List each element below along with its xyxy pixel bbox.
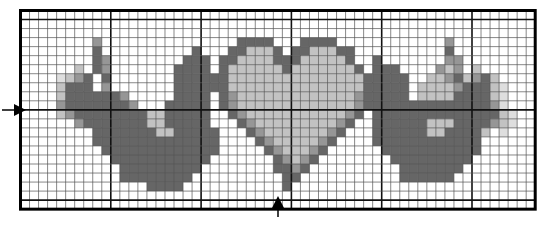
- stitch-cell: [120, 155, 129, 164]
- stitch-cell: [201, 146, 210, 155]
- stitch-cell: [400, 83, 409, 92]
- stitch-cell: [291, 137, 300, 146]
- stitch-cell: [183, 56, 192, 65]
- stitch-cell: [147, 110, 156, 119]
- stitch-cell: [291, 128, 300, 137]
- stitch-cell: [409, 128, 418, 137]
- stitch-cell: [102, 92, 111, 101]
- stitch-cell: [93, 101, 102, 110]
- stitch-cell: [337, 101, 346, 110]
- stitch-cell: [364, 83, 373, 92]
- stitch-cell: [291, 65, 300, 74]
- stitch-cell: [499, 83, 508, 92]
- stitch-cell: [309, 74, 318, 83]
- stitch-cell: [508, 119, 517, 128]
- stitch-cell: [273, 164, 282, 173]
- stitch-cell: [219, 65, 228, 74]
- stitch-cell: [445, 83, 454, 92]
- stitch-cell: [328, 110, 337, 119]
- stitch-cell: [346, 74, 355, 83]
- stitch-cell: [445, 65, 454, 74]
- stitch-cell: [147, 119, 156, 128]
- stitch-cell: [309, 92, 318, 101]
- stitch-cell: [111, 119, 120, 128]
- stitch-cell: [165, 173, 174, 182]
- stitch-cell: [273, 128, 282, 137]
- stitch-cell: [192, 110, 201, 119]
- stitch-cell: [418, 146, 427, 155]
- stitch-cell: [120, 119, 129, 128]
- stitch-cell: [382, 74, 391, 83]
- stitch-cell: [328, 83, 337, 92]
- stitch-cell: [346, 119, 355, 128]
- stitch-cell: [418, 101, 427, 110]
- stitch-cell: [66, 101, 75, 110]
- stitch-cell: [291, 119, 300, 128]
- stitch-cell: [346, 101, 355, 110]
- stitch-cell: [273, 119, 282, 128]
- stitch-cell: [454, 110, 463, 119]
- stitch-cell: [192, 101, 201, 110]
- stitch-cell: [120, 146, 129, 155]
- stitch-cell: [183, 155, 192, 164]
- stitch-cell: [382, 119, 391, 128]
- stitch-cell: [246, 74, 255, 83]
- stitch-cell: [300, 38, 309, 47]
- stitch-cell: [75, 101, 84, 110]
- stitch-cell: [318, 83, 327, 92]
- stitch-cell: [427, 119, 436, 128]
- stitch-cell: [246, 38, 255, 47]
- stitch-cell: [282, 155, 291, 164]
- stitch-cell: [481, 128, 490, 137]
- stitch-cell: [418, 92, 427, 101]
- stitch-cell: [355, 101, 364, 110]
- stitch-cell: [454, 65, 463, 74]
- stitch-cell: [93, 56, 102, 65]
- stitch-cell: [264, 128, 273, 137]
- stitch-cell: [246, 65, 255, 74]
- stitch-cell: [400, 128, 409, 137]
- stitch-cell: [282, 110, 291, 119]
- stitch-cell: [436, 146, 445, 155]
- stitch-cell: [282, 56, 291, 65]
- stitch-cell: [300, 137, 309, 146]
- stitch-cell: [309, 65, 318, 74]
- stitch-cell: [490, 83, 499, 92]
- stitch-cell: [318, 110, 327, 119]
- stitch-cell: [174, 182, 183, 191]
- stitch-cell: [237, 38, 246, 47]
- stitch-cell: [318, 137, 327, 146]
- stitch-cell: [391, 128, 400, 137]
- stitch-cell: [445, 146, 454, 155]
- stitch-cell: [490, 92, 499, 101]
- stitch-cell: [291, 110, 300, 119]
- stitch-cell: [75, 74, 84, 83]
- stitch-cell: [436, 155, 445, 164]
- stitch-cell: [409, 110, 418, 119]
- stitch-cell: [129, 146, 138, 155]
- stitch-cell: [382, 110, 391, 119]
- stitch-cell: [282, 101, 291, 110]
- stitch-cell: [228, 92, 237, 101]
- stitch-cell: [147, 155, 156, 164]
- stitch-cell: [427, 128, 436, 137]
- stitch-cell: [102, 74, 111, 83]
- stitch-cell: [445, 47, 454, 56]
- stitch-cell: [300, 74, 309, 83]
- stitch-cell: [337, 83, 346, 92]
- stitch-cell: [400, 92, 409, 101]
- stitch-cell: [445, 38, 454, 47]
- stitch-cell: [346, 92, 355, 101]
- stitch-cell: [328, 38, 337, 47]
- stitch-cell: [454, 128, 463, 137]
- stitch-cell: [75, 92, 84, 101]
- stitch-cell: [427, 110, 436, 119]
- stitch-cell: [291, 74, 300, 83]
- stitch-cell: [255, 65, 264, 74]
- stitch-cell: [111, 92, 120, 101]
- stitch-cell: [129, 101, 138, 110]
- stitch-cell: [219, 74, 228, 83]
- stitch-cell: [255, 56, 264, 65]
- stitch-cell: [427, 101, 436, 110]
- stitch-cell: [66, 92, 75, 101]
